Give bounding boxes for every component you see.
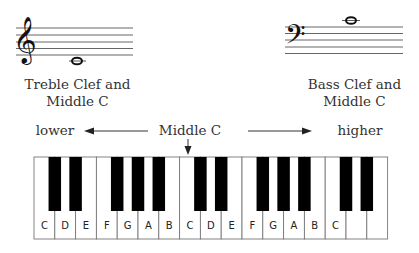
treble-caption-line1: Treble Clef and (10, 76, 145, 93)
arrow-higher (248, 128, 312, 135)
key-label: C (332, 220, 339, 231)
key-label: C (187, 220, 194, 231)
middle-c-note-bass (342, 17, 360, 24)
black-key (132, 157, 145, 211)
black-key (361, 157, 374, 211)
black-key (49, 157, 62, 211)
key-label: C (41, 220, 48, 231)
key-label: A (145, 220, 152, 231)
black-key (153, 157, 166, 211)
key-label: E (228, 220, 234, 231)
lower-label: lower (30, 122, 80, 139)
bass-caption: Bass Clef and Middle C (292, 76, 417, 110)
key-label: B (166, 220, 173, 231)
black-key (257, 157, 270, 211)
black-key (215, 157, 228, 211)
black-key (340, 157, 353, 211)
black-key (111, 157, 124, 211)
higher-label: higher (330, 122, 390, 139)
key-label: G (124, 220, 132, 231)
black-key (298, 157, 311, 211)
black-key (194, 157, 207, 211)
middle-c-label: Middle C (150, 122, 230, 139)
treble-caption-line2: Middle C (10, 93, 145, 110)
key-label: F (104, 220, 110, 231)
middle-c-note-treble (69, 58, 86, 65)
bass-caption-line2: Middle C (292, 93, 417, 110)
key-label: G (269, 220, 277, 231)
key-label: D (61, 220, 69, 231)
black-key (69, 157, 82, 211)
arrow-middle-c-down (185, 139, 192, 155)
key-label: D (207, 220, 215, 231)
bass-caption-line1: Bass Clef and (292, 76, 417, 93)
key-label: E (83, 220, 89, 231)
bass-clef-glyph: 𝄢 (280, 18, 310, 58)
treble-caption: Treble Clef and Middle C (10, 76, 145, 110)
arrow-lower (84, 128, 148, 135)
key-label: A (291, 220, 298, 231)
piano-keyboard: CDEFGABCDEFGABC (34, 157, 388, 239)
key-label: F (250, 220, 256, 231)
treble-clef-glyph: 𝄞 (10, 14, 40, 64)
key-label: B (311, 220, 318, 231)
black-key (277, 157, 290, 211)
